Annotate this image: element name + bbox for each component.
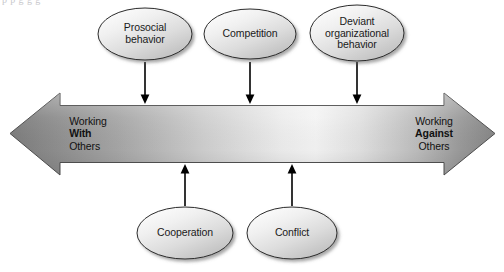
node-label-deviant-organizational-behavior: Deviantorganizationalbehavior — [325, 16, 389, 51]
node-label-line2: organizational — [325, 26, 389, 38]
node-label-line1: Conflict — [275, 226, 309, 238]
node-label-line1: Competition — [223, 27, 278, 39]
connector-cooperation — [181, 164, 190, 206]
axis-label-working-with-others: WorkingWithOthers — [69, 115, 107, 152]
node-label-line1: Cooperation — [157, 226, 213, 238]
axis-label-working-against-others: WorkingAgainstOthers — [415, 115, 453, 152]
node-label-line1: Deviant — [340, 15, 375, 27]
node-label-line3: behavior — [337, 38, 376, 50]
connector-prosocial-behavior — [141, 62, 150, 104]
node-label-line1: Prosocial — [124, 21, 166, 33]
axis-label-line2: Against — [415, 128, 453, 140]
connector-group-up — [181, 164, 297, 206]
node-label-prosocial-behavior: Prosocialbehavior — [124, 22, 166, 45]
connector-conflict — [288, 164, 297, 206]
axis-label-line3: Others — [419, 140, 450, 152]
axis-label-line2: With — [69, 128, 91, 140]
axis-label-line1: Working — [415, 115, 453, 127]
connector-deviant-organizational-behavior — [353, 62, 362, 104]
connector-group-down — [141, 62, 362, 104]
node-label-line2: behavior — [125, 33, 164, 45]
connector-competition — [246, 62, 255, 104]
node-label-conflict: Conflict — [275, 227, 309, 239]
axis-label-line1: Working — [69, 115, 107, 127]
node-label-competition: Competition — [223, 28, 278, 40]
axis-label-line3: Others — [69, 140, 100, 152]
figure-working-with-against-others: p p g g g — [0, 0, 504, 272]
node-label-cooperation: Cooperation — [157, 227, 213, 239]
